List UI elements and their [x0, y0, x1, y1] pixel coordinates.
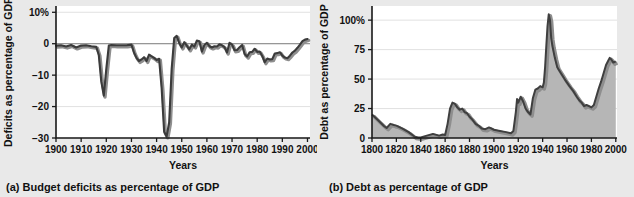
xtick-label-10: 2000	[605, 144, 628, 155]
two-panel-figure: 1900191019201930194019501960197019801990…	[0, 0, 634, 197]
ytick-label-3: −20	[32, 101, 49, 112]
panel-a-caption: (a) Budget deficits as percentage of GDP	[6, 181, 219, 193]
ytick-label-1: 0	[43, 38, 49, 49]
xtick-label-4: 1940	[145, 144, 168, 155]
plot-background	[56, 6, 310, 138]
ytick-label-2: 50	[354, 74, 366, 85]
xtick-label-2: 1840	[410, 144, 433, 155]
ytick-label-4: 0	[359, 133, 365, 144]
xtick-label-6: 1920	[507, 144, 530, 155]
xtick-label-0: 1900	[45, 144, 68, 155]
xtick-label-1: 1910	[70, 144, 93, 155]
chart-a-svg: 1900191019201930194019501960197019801990…	[0, 0, 317, 197]
xtick-label-9: 1990	[271, 144, 294, 155]
xtick-label-3: 1860	[434, 144, 457, 155]
xtick-label-7: 1940	[532, 144, 555, 155]
xtick-label-5: 1900	[483, 144, 506, 155]
panel-a-budget-deficits: 1900191019201930194019501960197019801990…	[0, 0, 317, 197]
xtick-label-10: 2000	[296, 144, 317, 155]
ytick-label-2: −10	[32, 70, 49, 81]
xtick-label-5: 1950	[171, 144, 194, 155]
panel-b-debt: 1800182018401860188019001920194019601980…	[317, 0, 634, 197]
chart-b-svg: 1800182018401860188019001920194019601980…	[317, 0, 634, 197]
xtick-label-0: 1800	[361, 144, 384, 155]
xtick-label-7: 1970	[221, 144, 244, 155]
xtick-label-9: 1980	[580, 144, 603, 155]
ytick-label-3: 25	[354, 103, 366, 114]
x-axis-title: Years	[169, 159, 197, 171]
x-axis-title: Years	[480, 159, 508, 171]
ytick-label-4: −30	[32, 133, 49, 144]
ytick-label-0: 10%	[29, 7, 49, 18]
ytick-label-0: 100%	[339, 15, 365, 26]
xtick-label-6: 1960	[196, 144, 219, 155]
xtick-label-8: 1980	[246, 144, 269, 155]
xtick-label-2: 1920	[95, 144, 118, 155]
xtick-label-3: 1930	[120, 144, 143, 155]
xtick-label-4: 1880	[458, 144, 481, 155]
panel-b-caption: (b) Debt as percentage of GDP	[329, 181, 488, 193]
y-axis-title: Debt as percentage of GDP	[318, 4, 330, 139]
xtick-label-1: 1820	[385, 144, 408, 155]
y-axis-title: Deficits as percentage of GDP	[2, 0, 14, 147]
ytick-label-1: 75	[354, 44, 366, 55]
xtick-label-8: 1960	[556, 144, 579, 155]
